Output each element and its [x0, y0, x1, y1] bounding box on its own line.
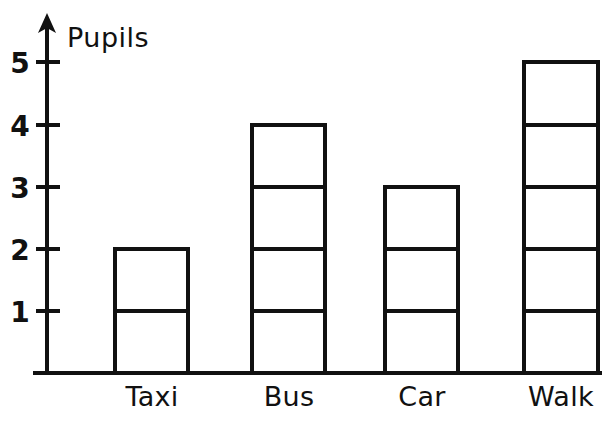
- bar-walk-body: [524, 62, 598, 373]
- y-axis-title: Pupils: [67, 22, 149, 53]
- bar-chart-figure: 5 4 3 2 1 Pupils: [0, 0, 602, 424]
- y-tick-label-5: 5: [10, 47, 29, 80]
- category-label-taxi: Taxi: [124, 381, 178, 412]
- bar-car: [385, 187, 458, 373]
- bar-car-body: [385, 187, 458, 373]
- category-label-walk: Walk: [528, 381, 594, 412]
- chart-canvas: 5 4 3 2 1 Pupils: [0, 0, 602, 424]
- y-tick-label-4: 4: [10, 110, 29, 143]
- category-label-car: Car: [398, 381, 446, 412]
- bar-bus: [252, 125, 325, 373]
- y-tick-label-3: 3: [10, 172, 29, 205]
- y-tick-label-2: 2: [10, 234, 29, 267]
- bar-walk: [524, 62, 598, 373]
- bar-taxi: [115, 249, 188, 373]
- category-label-bus: Bus: [264, 381, 315, 412]
- y-tick-label-1: 1: [10, 296, 29, 329]
